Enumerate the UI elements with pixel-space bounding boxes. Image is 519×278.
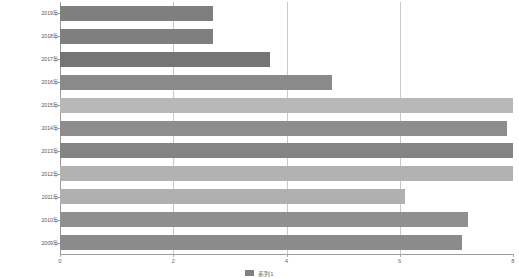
x-tick-label-8: 8 xyxy=(511,258,514,264)
legend-label-0: 系列1 xyxy=(258,269,273,278)
y-tick-label-2016年: 2016年 xyxy=(0,78,63,85)
y-tick-label-2012年: 2012年 xyxy=(0,170,63,177)
bar-2012年 xyxy=(60,166,513,181)
y-tick-mark xyxy=(57,220,60,221)
bar-2017年 xyxy=(60,52,270,67)
x-tick-mark-2 xyxy=(173,254,174,257)
chart-legend: 系列1 xyxy=(0,268,519,278)
y-tick-label-2011年: 2011年 xyxy=(0,193,63,200)
bar-2016年 xyxy=(60,75,332,90)
bar-2014年 xyxy=(60,121,507,136)
x-tick-mark-0 xyxy=(60,254,61,257)
bar-2018年 xyxy=(60,29,213,44)
y-tick-mark xyxy=(57,128,60,129)
y-tick-mark xyxy=(57,174,60,175)
legend-swatch-0 xyxy=(245,270,254,276)
bar-2013年 xyxy=(60,143,513,158)
y-tick-mark xyxy=(57,13,60,14)
y-tick-mark xyxy=(57,243,60,244)
y-tick-mark xyxy=(57,197,60,198)
y-tick-mark xyxy=(57,36,60,37)
bar-chart: 2019年2018年2017年2016年2015年2014年2013年2012年… xyxy=(0,0,519,278)
bar-2015年 xyxy=(60,98,513,113)
y-tick-label-2017年: 2017年 xyxy=(0,55,63,62)
x-tick-mark-4 xyxy=(287,254,288,257)
x-tick-label-4: 4 xyxy=(285,258,288,264)
bar-2019年 xyxy=(60,6,213,21)
bar-2011年 xyxy=(60,189,405,204)
bar-2009年 xyxy=(60,235,462,250)
y-tick-label-2015年: 2015年 xyxy=(0,101,63,108)
y-tick-label-2010年: 2010年 xyxy=(0,216,63,223)
y-tick-label-2009年: 2009年 xyxy=(0,239,63,246)
x-tick-label-6: 6 xyxy=(398,258,401,264)
bar-2010年 xyxy=(60,212,468,227)
y-tick-mark xyxy=(57,151,60,152)
x-tick-mark-8 xyxy=(513,254,514,257)
x-tick-label-2: 2 xyxy=(172,258,175,264)
x-tick-mark-6 xyxy=(400,254,401,257)
y-tick-label-2018年: 2018年 xyxy=(0,32,63,39)
y-tick-label-2013年: 2013年 xyxy=(0,147,63,154)
x-tick-label-0: 0 xyxy=(58,258,61,264)
y-tick-label-2014年: 2014年 xyxy=(0,124,63,131)
y-tick-label-2019年: 2019年 xyxy=(0,9,63,16)
y-tick-mark xyxy=(57,82,60,83)
y-tick-mark xyxy=(57,59,60,60)
y-tick-mark xyxy=(57,105,60,106)
